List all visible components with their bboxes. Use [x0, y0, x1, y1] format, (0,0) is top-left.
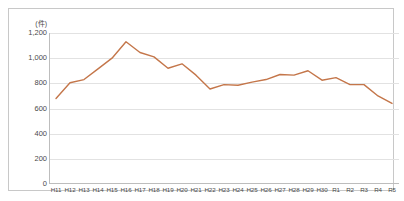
- x-axis-tick-label: H30: [316, 187, 327, 193]
- x-axis-tick-label: H12: [64, 187, 75, 193]
- x-axis-tick-label: H20: [176, 187, 187, 193]
- x-axis-tick-label: R3: [360, 187, 368, 193]
- x-axis-tick-label: R5: [388, 187, 396, 193]
- chart-frame: (件) 02004006008001,0001,200 H11H12H13H14…: [8, 8, 394, 191]
- y-axis-tick-label: 800: [11, 80, 47, 88]
- series-polyline: [56, 42, 392, 104]
- x-axis-tick-label: H29: [302, 187, 313, 193]
- y-axis-tick-label: 600: [11, 105, 47, 113]
- y-axis-tick-label: 400: [11, 130, 47, 138]
- x-axis-tick-label: H15: [106, 187, 117, 193]
- x-axis-tick-label: H13: [78, 187, 89, 193]
- x-axis-tick-label: R4: [374, 187, 382, 193]
- y-axis-tick-label: 1,200: [11, 29, 47, 37]
- x-axis-tick-label: R2: [346, 187, 354, 193]
- x-axis-tick-label: H27: [274, 187, 285, 193]
- plot-area: [49, 33, 399, 184]
- chart-screenshot: (件) 02004006008001,0001,200 H11H12H13H14…: [0, 0, 404, 201]
- x-axis-tick-label: H25: [246, 187, 257, 193]
- y-axis-tick-label: 0: [11, 180, 47, 188]
- x-axis-tick-labels: H11H12H13H14H15H16H17H18H19H20H21H22H23H…: [49, 185, 399, 199]
- y-axis-tick-label: 200: [11, 155, 47, 163]
- x-axis-tick-label: H14: [92, 187, 103, 193]
- line-series: [49, 33, 399, 184]
- y-axis-tick-label: 1,000: [11, 54, 47, 62]
- x-axis-tick-label: H21: [190, 187, 201, 193]
- x-axis-tick-label: H18: [148, 187, 159, 193]
- x-axis-tick-label: H11: [51, 187, 62, 193]
- x-axis-tick-label: H16: [120, 187, 131, 193]
- x-axis-tick-label: H19: [162, 187, 173, 193]
- y-axis-tick-labels: 02004006008001,0001,200: [9, 33, 47, 184]
- x-axis-tick-label: H22: [204, 187, 215, 193]
- x-axis-tick-label: H24: [232, 187, 243, 193]
- x-axis-tick-label: H17: [134, 187, 145, 193]
- x-axis-tick-label: R1: [332, 187, 340, 193]
- x-axis-tick-label: H28: [288, 187, 299, 193]
- x-axis-tick-label: H26: [260, 187, 271, 193]
- y-axis-unit-label: (件): [9, 20, 47, 27]
- x-axis-tick-label: H23: [218, 187, 229, 193]
